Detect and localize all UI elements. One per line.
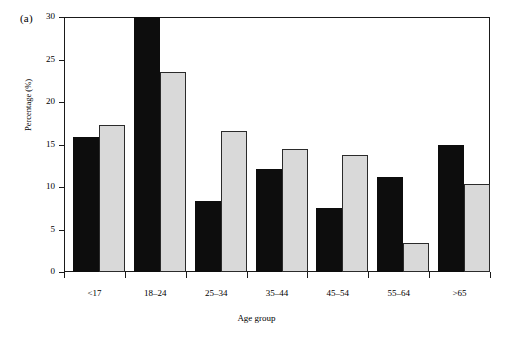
y-tick: 5 — [59, 230, 64, 231]
bar-1-0 — [99, 125, 125, 272]
x-tick-label: >65 — [430, 288, 490, 298]
bar-1-4 — [342, 155, 368, 272]
panel-label: (a) — [20, 12, 33, 24]
bars-layer — [64, 17, 490, 272]
x-axis-title: Age group — [0, 313, 513, 323]
y-tick: 15 — [59, 145, 64, 146]
y-tick: 25 — [59, 60, 64, 61]
x-tick — [429, 272, 430, 278]
y-axis-title: Percentage (%) — [23, 55, 33, 155]
x-tick-label: 25–34 — [186, 288, 246, 298]
bar-0-3 — [256, 169, 282, 272]
bar-1-1 — [160, 72, 186, 272]
y-tick: 10 — [59, 187, 64, 188]
x-tick-label: 45–54 — [308, 288, 368, 298]
x-tick — [307, 272, 308, 278]
x-tick-label: 18–24 — [125, 288, 185, 298]
y-tick-label: 0 — [51, 266, 56, 276]
x-tick — [247, 272, 248, 278]
x-tick-label: <17 — [64, 288, 124, 298]
x-tick — [368, 272, 369, 278]
y-tick: 20 — [59, 102, 64, 103]
y-tick-label: 25 — [46, 54, 55, 64]
bar-0-6 — [438, 145, 464, 272]
x-tick — [125, 272, 126, 278]
y-tick-label: 15 — [46, 139, 55, 149]
x-tick-label: 35–44 — [247, 288, 307, 298]
x-tick — [64, 272, 65, 278]
bar-0-1 — [134, 17, 160, 272]
y-tick-label: 10 — [46, 181, 55, 191]
bar-1-6 — [464, 184, 490, 272]
y-tick-label: 30 — [46, 11, 55, 21]
bar-0-4 — [316, 208, 342, 272]
bar-0-0 — [73, 137, 99, 272]
bar-1-3 — [282, 149, 308, 272]
bar-0-2 — [195, 201, 221, 272]
figure-panel: (a) Percentage (%) 051015202530 <1718–24… — [0, 0, 513, 338]
x-tick-label: 55–64 — [369, 288, 429, 298]
y-tick-label: 20 — [46, 96, 55, 106]
y-tick-label: 5 — [51, 224, 56, 234]
x-tick — [186, 272, 187, 278]
bar-0-5 — [377, 177, 403, 272]
y-tick: 30 — [59, 17, 64, 18]
bar-1-5 — [403, 243, 429, 272]
bar-1-2 — [221, 131, 247, 272]
x-tick — [490, 272, 491, 278]
